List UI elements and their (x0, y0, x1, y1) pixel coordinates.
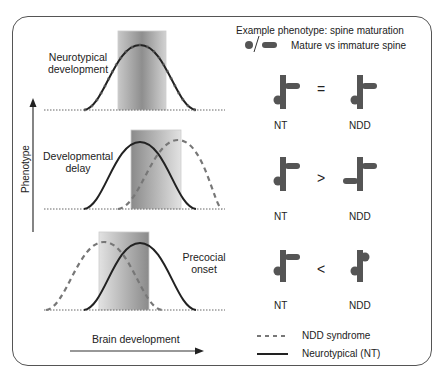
spine-legend-text: Mature vs immature spine (291, 40, 406, 52)
nt-spine-icon (274, 75, 301, 109)
legend-nt-text: Neurotypical (NT) (302, 348, 380, 360)
nt-label: NT (274, 300, 287, 312)
comparison-equal: = (317, 83, 325, 95)
ndd-label: NDD (349, 300, 371, 312)
comparison-less: < (317, 263, 325, 275)
ndd-spine-icon (351, 250, 370, 282)
y-axis-label: Phenotype (20, 139, 32, 199)
nt-spine-icon (274, 250, 301, 282)
ndd-spine-icon (351, 75, 378, 109)
legend-ndd-text: NDD syndrome (302, 330, 370, 342)
spine-row-1 (274, 75, 378, 109)
panel-label-precocial-onset: Precocialonset (174, 251, 234, 275)
header-title: Example phenotype: spine maturation (236, 25, 404, 37)
nt-spine-icon (274, 157, 301, 191)
ndd-label: NDD (349, 211, 371, 223)
spine-row-2 (274, 157, 378, 191)
nt-label: NT (274, 211, 287, 223)
mature-spine-icon (245, 41, 253, 49)
immature-spine-icon (262, 42, 277, 48)
ndd-label: NDD (349, 120, 371, 132)
line-legend (257, 336, 288, 354)
ndd-spine-icon (343, 157, 377, 191)
critical-window-shade (118, 31, 166, 110)
panel-label-neurotypical: Neurotypicaldevelopment (40, 51, 116, 75)
spine-legend-icons (245, 36, 277, 52)
nt-label: NT (274, 120, 287, 132)
slash-divider (254, 36, 259, 52)
panel-label-developmental-delay: Developmentaldelay (40, 150, 116, 174)
x-axis-label: Brain development (92, 333, 180, 345)
comparison-greater: > (317, 172, 325, 184)
x-axis-arrow (70, 348, 204, 355)
